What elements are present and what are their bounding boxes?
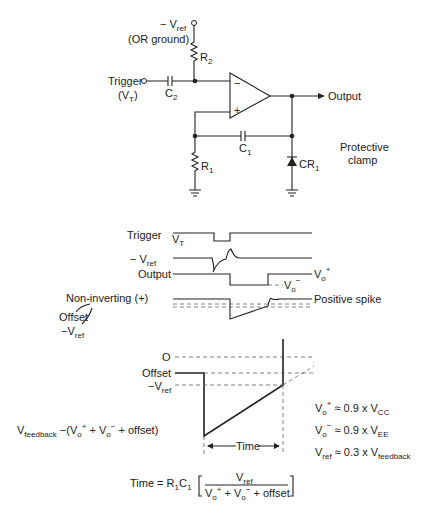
neg-vref-wave-label: − Vref bbox=[130, 253, 157, 268]
c1-label: C1 bbox=[239, 142, 252, 157]
neg-vref-terminal bbox=[192, 21, 197, 26]
offset-annotation: Offset bbox=[59, 311, 88, 323]
noninv-waveform bbox=[173, 298, 312, 319]
opamp-plus: + bbox=[234, 104, 240, 116]
c1-capacitor bbox=[195, 96, 292, 141]
ramp-waveform bbox=[175, 339, 283, 436]
cr1-label: CR1 bbox=[299, 158, 320, 173]
ramp-detail: O Offset −Vref Time Vfeedback −(Vo+ + Vo… bbox=[17, 339, 314, 455]
time-equation-lhs: Time = R1C1 bbox=[130, 477, 192, 492]
neg-vref-waveform bbox=[173, 249, 312, 272]
r2-resistor bbox=[191, 25, 197, 80]
trigger-input-label: Trigger bbox=[108, 75, 143, 87]
vfeedback-label: Vfeedback −(Vo+ + Vo− + offset) bbox=[17, 422, 158, 439]
clamp-label-2: clamp bbox=[348, 154, 377, 166]
vref-equation: Vref ≈ 0.3 x Vfeedback bbox=[315, 446, 412, 461]
time-arrow-right-icon bbox=[274, 443, 280, 449]
r1-label: R1 bbox=[201, 160, 214, 175]
timing-waveforms: VT Trigger − Vref Output Vo+ Vo− Non-inv… bbox=[59, 229, 381, 340]
equations: Vo+ ≈ 0.9 x VCC Vo− ≈ 0.9 x VEE Vref ≈ 0… bbox=[130, 399, 412, 502]
neg-vref-label: − Vref bbox=[160, 18, 187, 33]
vo-minus-label: Vo− bbox=[284, 276, 301, 294]
ground-icon bbox=[286, 190, 298, 196]
vt-input-label: (VT) bbox=[118, 89, 138, 104]
vo-plus-label: Vo+ bbox=[314, 265, 331, 283]
neg-vref-annotation: −Vref bbox=[61, 325, 85, 340]
output-wave-label: Output bbox=[138, 268, 171, 280]
r1-resistor bbox=[192, 136, 198, 190]
opamp-minus: − bbox=[234, 77, 240, 89]
diode-icon bbox=[287, 157, 297, 166]
time-equation-numerator: Vref bbox=[236, 471, 253, 486]
output-arrow-icon bbox=[318, 93, 325, 99]
or-ground-label: (OR ground) bbox=[128, 33, 189, 45]
trigger-terminal bbox=[142, 79, 147, 84]
clamp-label-1: Protective bbox=[340, 141, 389, 153]
left-bracket bbox=[199, 476, 202, 496]
ground-icon bbox=[189, 190, 201, 196]
time-label: Time bbox=[236, 440, 260, 452]
right-bracket bbox=[290, 476, 293, 496]
zero-label: O bbox=[162, 351, 171, 363]
time-arrow-left-icon bbox=[207, 443, 213, 449]
vo-minus-equation: Vo− ≈ 0.9 x VEE bbox=[315, 421, 389, 439]
c2-label: C2 bbox=[165, 87, 178, 102]
positive-spike-label: Positive spike bbox=[314, 293, 381, 305]
trigger-wave-label: Trigger bbox=[127, 229, 162, 241]
time-equation-denominator: Vo+ + Vo− + offset bbox=[205, 485, 290, 502]
ramp-neg-vref-label: −Vref bbox=[148, 380, 172, 395]
noninv-wave-label: Non-inverting (+) bbox=[66, 292, 148, 304]
vt-label: VT bbox=[172, 233, 184, 248]
ramp-offset-label: Offset bbox=[142, 367, 171, 379]
trigger-waveform bbox=[173, 233, 312, 241]
output-label: Output bbox=[328, 90, 361, 102]
r2-label: R2 bbox=[200, 51, 213, 66]
c2-capacitor bbox=[147, 76, 230, 86]
monostable-diagram: − Vref (OR ground) R2 Trigger (VT) C2 − … bbox=[0, 0, 436, 519]
vo-plus-equation: Vo+ ≈ 0.9 x VCC bbox=[315, 399, 390, 417]
circuit-schematic: − Vref (OR ground) R2 Trigger (VT) C2 − … bbox=[108, 18, 389, 196]
